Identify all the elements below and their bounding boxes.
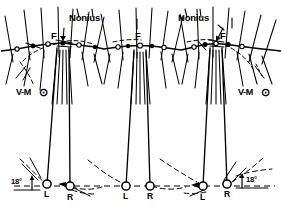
- f-label-left: F: [51, 31, 57, 41]
- figure-canvas: Nonius Nonius F F F V-M ⊙ V-M ⊙ 18° 18° …: [0, 0, 282, 209]
- site-label-r2: R: [147, 192, 153, 201]
- site-circle-r3: [223, 180, 231, 188]
- angle-label-left: 18°: [11, 178, 22, 186]
- site-label-l1: L: [44, 190, 49, 199]
- middle-splay-lines: [6, 50, 272, 90]
- site-circle-l2: [122, 182, 130, 190]
- diagram-svg: [0, 0, 282, 209]
- site-label-l2: L: [123, 192, 128, 201]
- f-label-center: F: [135, 31, 141, 41]
- site-circle-r1: [66, 182, 74, 190]
- vm-label-left: V-M: [16, 88, 31, 97]
- site-label-l3: L: [200, 193, 205, 202]
- angle-left-arrowhead: [30, 176, 35, 180]
- site-circle-r2: [146, 182, 154, 190]
- nonius-label-right: Nonius: [178, 13, 209, 23]
- vm-symbol-right: ⊙: [261, 87, 270, 98]
- vm-symbol-left: ⊙: [39, 87, 48, 98]
- site-label-r1: R: [67, 193, 73, 202]
- site-circle-l3: [199, 182, 207, 190]
- lr-site-markers: [43, 180, 231, 190]
- nonius-label-left: Nonius: [69, 13, 100, 23]
- converging-ray-bundles: [52, 50, 226, 104]
- base-site-rays: [22, 158, 246, 196]
- vm-label-right: V-M: [238, 88, 253, 97]
- f-label-right: F: [220, 31, 226, 41]
- site-circle-l1: [43, 180, 51, 188]
- angle-label-right: 18°: [246, 176, 257, 184]
- site-label-r3: R: [224, 190, 230, 199]
